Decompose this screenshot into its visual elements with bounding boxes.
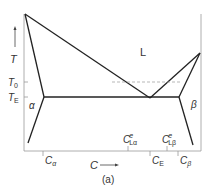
c-l-alpha-e-label: CeLα — [123, 132, 137, 146]
t0-label: T0 — [8, 77, 18, 89]
c-e-label: CE — [152, 155, 164, 167]
te-label: TE — [8, 92, 19, 104]
beta-label: β — [190, 99, 197, 110]
c-arrowhead-icon — [115, 164, 119, 167]
c-alpha-label: Cα — [45, 155, 57, 167]
t-arrowhead-icon — [14, 26, 17, 30]
solidus-beta — [179, 53, 200, 97]
phase-diagram: T T0 TE L α β Cα CE Cβ CeLα CeLβ C (a) — [0, 0, 213, 191]
c-l-beta-e-label: CeLβ — [162, 132, 176, 147]
c-beta-label: Cβ — [180, 155, 191, 168]
solidus-alpha — [25, 14, 44, 97]
figure-caption: (a) — [102, 174, 114, 185]
liquid-label: L — [140, 46, 146, 58]
x-axis-label: C — [90, 159, 98, 171]
alpha-label: α — [29, 100, 35, 111]
y-axis-label: T — [10, 53, 18, 65]
liquidus-beta — [150, 53, 200, 98]
liquidus-alpha — [25, 14, 150, 98]
